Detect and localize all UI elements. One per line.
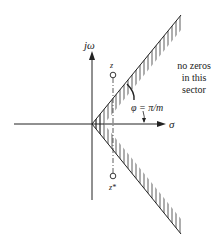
s-plane-diagram: jω σ z z* φ = π/m no zeros in this secto… (0, 0, 221, 249)
zero-lower-label: z* (108, 183, 116, 192)
zero-upper-label: z (109, 61, 114, 70)
sector-note-line2: in this (182, 72, 207, 83)
sector-note-line1: no zeros (177, 60, 211, 71)
jomega-label: jω (82, 39, 95, 51)
zero-upper-marker (110, 72, 116, 78)
diagram-canvas: jω σ z z* φ = π/m no zeros in this secto… (0, 0, 221, 249)
zero-lower-marker (110, 173, 116, 179)
jomega-axis-arrow-icon (89, 51, 95, 60)
sigma-label: σ (169, 118, 175, 130)
sector-note-line3: sector (182, 84, 207, 95)
angle-label: φ = π/m (131, 102, 163, 113)
